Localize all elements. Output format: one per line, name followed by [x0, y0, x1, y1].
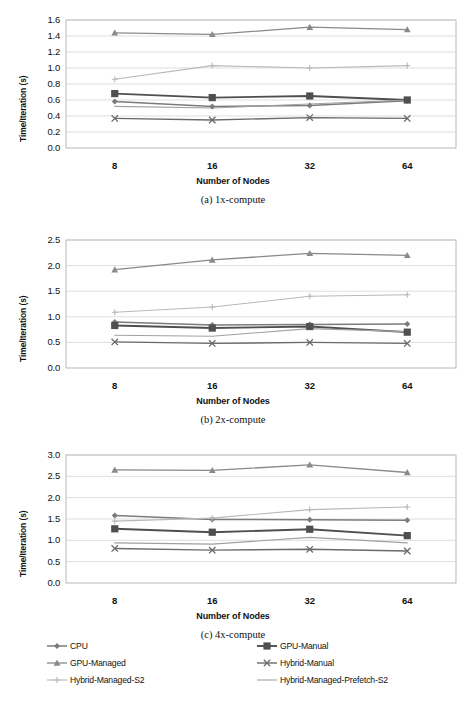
- y-axis-title: Time/Iteration (s): [18, 295, 28, 362]
- y-axis-tick-label: 0.0: [47, 142, 60, 153]
- y-axis-tick-label: 1.2: [47, 46, 60, 57]
- legend-marker-x-icon: [256, 658, 278, 668]
- x-axis-tick-label: 8: [95, 380, 135, 391]
- y-axis-tick-label: 0.5: [47, 336, 60, 347]
- series-point-gpu-manual: [111, 90, 118, 97]
- plot-area-2: [0, 228, 466, 378]
- chart-panel-2x-compute: 0.00.51.01.52.02.5Time/Iteration (s)8163…: [0, 228, 466, 438]
- x-axis-tick-label: 8: [95, 595, 135, 606]
- legend-label: Hybrid-Managed-S2: [70, 675, 144, 685]
- y-axis-tick-label: 0.0: [47, 577, 60, 588]
- subfigure-caption: (a) 1x-compute: [0, 194, 466, 205]
- y-axis-title: Time/Iteration (s): [18, 75, 28, 142]
- y-axis-tick-label: 2.5: [47, 234, 60, 245]
- y-axis-tick-label: 1.5: [47, 285, 60, 296]
- legend-label: Hybrid-Managed-Prefetch-S2: [280, 675, 388, 685]
- y-axis-tick-label: 1.4: [47, 30, 60, 41]
- legend-label: CPU: [70, 641, 88, 651]
- y-axis-tick-label: 2.0: [47, 492, 60, 503]
- chart-panel-4x-compute: 0.00.51.01.52.02.53.0Time/Iteration (s)8…: [0, 443, 466, 653]
- x-axis-tick-label: 64: [387, 160, 427, 171]
- x-axis-tick-label: 64: [387, 380, 427, 391]
- plot-area-1: [0, 8, 466, 158]
- x-axis-tick-label: 32: [290, 380, 330, 391]
- legend-label: Hybrid-Manual: [280, 658, 334, 668]
- legend-item-cpu[interactable]: CPU: [46, 641, 256, 651]
- x-axis-tick-label: 32: [290, 595, 330, 606]
- series-point-gpu-manual: [209, 94, 216, 101]
- series-point-gpu-manual: [404, 329, 411, 336]
- legend-marker-square-icon: [256, 641, 278, 651]
- x-axis-tick-label: 16: [192, 160, 232, 171]
- y-axis-tick-label: 1.6: [47, 14, 60, 25]
- legend-item-hybrid-manual[interactable]: Hybrid-Manual: [256, 658, 466, 668]
- subfigure-caption: (b) 2x-compute: [0, 414, 466, 425]
- y-axis-tick-label: 0.2: [47, 126, 60, 137]
- y-axis-tick-label: 2.0: [47, 260, 60, 271]
- chart-legend: CPUGPU-ManualGPU-ManagedHybrid-ManualHyb…: [0, 641, 466, 685]
- y-axis-tick-label: 0.5: [47, 556, 60, 567]
- chart-panel-1x-compute: 0.00.20.40.60.81.01.21.41.6Time/Iteratio…: [0, 8, 466, 218]
- legend-item-gpu-managed[interactable]: GPU-Managed: [46, 658, 256, 668]
- x-axis-tick-label: 64: [387, 595, 427, 606]
- figure-page: 0.00.20.40.60.81.01.21.41.6Time/Iteratio…: [0, 0, 466, 714]
- x-axis-title: Number of Nodes: [0, 176, 466, 186]
- legend-marker-line-icon: [256, 675, 278, 685]
- series-point-gpu-manual: [209, 529, 216, 536]
- series-point-gpu-manual: [111, 322, 118, 329]
- y-axis-tick-label: 0.4: [47, 110, 60, 121]
- x-axis-tick-label: 16: [192, 380, 232, 391]
- x-axis-tick-label: 32: [290, 160, 330, 171]
- series-point-gpu-manual: [306, 526, 313, 533]
- legend-item-gpu-manual[interactable]: GPU-Manual: [256, 641, 466, 651]
- y-axis-tick-label: 1.0: [47, 311, 60, 322]
- legend-item-hybrid-managed-s2[interactable]: Hybrid-Managed-S2: [46, 675, 256, 685]
- y-axis-tick-label: 0.6: [47, 94, 60, 105]
- series-point-gpu-manual: [111, 525, 118, 532]
- y-axis-title: Time/Iteration (s): [18, 510, 28, 577]
- x-axis-tick-label: 16: [192, 595, 232, 606]
- plot-area-3: [0, 443, 466, 593]
- y-axis-tick-label: 1.5: [47, 513, 60, 524]
- series-point-gpu-manual: [404, 96, 411, 103]
- legend-label: GPU-Manual: [280, 641, 328, 651]
- series-point-gpu-manual: [306, 323, 313, 330]
- x-axis-title: Number of Nodes: [0, 611, 466, 621]
- legend-marker-triangle-icon: [46, 658, 68, 668]
- y-axis-tick-label: 3.0: [47, 449, 60, 460]
- y-axis-tick-label: 0.0: [47, 362, 60, 373]
- subfigure-caption: (c) 4x-compute: [0, 629, 466, 640]
- x-axis-title: Number of Nodes: [0, 396, 466, 406]
- legend-marker-diamond-icon: [46, 641, 68, 651]
- series-point-gpu-manual: [209, 324, 216, 331]
- legend-item-hybrid-managed-prefetch-s2[interactable]: Hybrid-Managed-Prefetch-S2: [256, 675, 466, 685]
- legend-label: GPU-Managed: [70, 658, 126, 668]
- series-point-gpu-manual: [306, 92, 313, 99]
- y-axis-tick-label: 0.8: [47, 78, 60, 89]
- legend-marker-plus-icon: [46, 675, 68, 685]
- x-axis-tick-label: 8: [95, 160, 135, 171]
- y-axis-tick-label: 2.5: [47, 470, 60, 481]
- series-point-gpu-manual: [404, 532, 411, 539]
- y-axis-tick-label: 1.0: [47, 534, 60, 545]
- y-axis-tick-label: 1.0: [47, 62, 60, 73]
